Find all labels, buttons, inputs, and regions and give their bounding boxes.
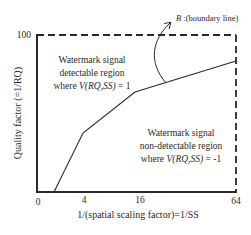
non-detectable-region-line1: Watermark signal — [147, 128, 214, 138]
y-axis-label: Quality factor (=1/RQ) — [12, 67, 24, 159]
non-detectable-region-line2: non-detectable region — [140, 141, 223, 151]
x-tick-64: 64 — [231, 196, 241, 206]
non-detectable-region-line3: where V(RQ,SS) = -1 — [141, 154, 222, 165]
detectable-region-line2: detectable region — [59, 68, 124, 78]
detectable-region-line1: Watermark signal — [58, 55, 125, 65]
detectable-region-line3: where V(RQ,SS) = 1 — [53, 81, 130, 92]
boundary-label: B :(boundary line) — [176, 13, 238, 23]
x-axis-label: 1/(spatial scaling factor)=1/SS — [77, 209, 199, 221]
x-tick-4: 4 — [82, 195, 87, 205]
x-tick-0: 0 — [36, 197, 41, 207]
x-tick-16: 16 — [135, 195, 145, 205]
boundary-label-text: :(boundary line) — [181, 13, 238, 23]
boundary-arrow — [154, 23, 170, 83]
y-tick-100: 100 — [17, 30, 32, 40]
boundary-diagram: B :(boundary line) Watermark signal dete… — [0, 0, 251, 235]
